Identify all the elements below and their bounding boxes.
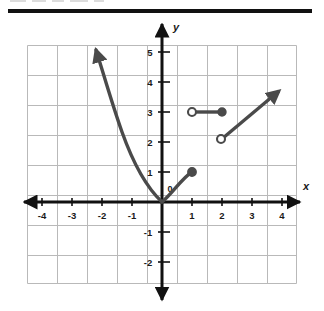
page-edge-artifact-1 — [10, 0, 26, 2]
y-tick-label: -1 — [144, 227, 153, 238]
x-tick-label: -2 — [98, 210, 106, 221]
axes — [24, 24, 300, 300]
page-edge-artifact-3 — [52, 0, 64, 2]
y-tick-label: 3 — [147, 107, 152, 118]
coordinate-graph: -4 -3 -2 -1 1 2 3 4 5 4 3 2 1 -1 -2 0 x … — [0, 0, 324, 311]
page-edge-artifact-4 — [70, 0, 88, 2]
closed-point-2-3 — [218, 108, 226, 116]
y-tick-label: 5 — [147, 47, 153, 58]
page-edge-artifact-2 — [32, 0, 46, 2]
closed-point-1-1 — [188, 168, 196, 176]
x-tick-label: 4 — [279, 210, 285, 221]
page-edge-artifact-5 — [94, 0, 104, 2]
y-tick-label: 1 — [147, 167, 153, 178]
y-tick-label: -2 — [144, 257, 152, 268]
y-tick-label: 4 — [147, 77, 153, 88]
open-point-2-2 — [217, 135, 225, 143]
x-tick-label: -1 — [128, 210, 137, 221]
x-axis-label: x — [302, 180, 310, 192]
open-point-1-3 — [188, 108, 196, 116]
x-tick-label: -4 — [38, 210, 47, 221]
x-tick-label: 3 — [249, 210, 254, 221]
x-tick-label: -3 — [68, 210, 76, 221]
y-tick-label: 2 — [147, 137, 152, 148]
function-graph — [96, 50, 279, 202]
y-axis-label: y — [172, 21, 180, 33]
figure-container: -4 -3 -2 -1 1 2 3 4 5 4 3 2 1 -1 -2 0 x … — [0, 0, 324, 311]
x-tick-label: 1 — [189, 210, 195, 221]
increasing-ray — [223, 91, 279, 138]
horizontal-rule — [8, 9, 312, 13]
y-axis-tick-labels: 5 4 3 2 1 -1 -2 — [144, 47, 154, 268]
x-tick-label: 2 — [219, 210, 224, 221]
